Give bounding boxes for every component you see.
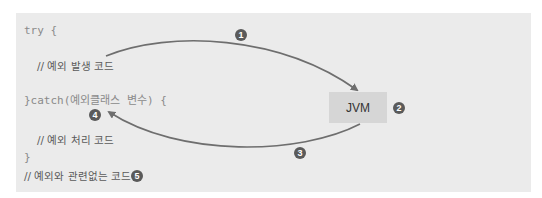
catch-line: }catch(예외클래스 변수) {: [24, 94, 167, 108]
jvm-label: JVM: [346, 101, 370, 115]
handling-comment: // 예외 처리 코드: [37, 133, 114, 147]
unrelated-comment: // 예외와 관련없는 코드: [24, 169, 131, 183]
exception-comment: // 예외 발생 코드: [37, 59, 114, 73]
step-marker-3: 3: [294, 147, 306, 159]
try-line: try {: [24, 24, 57, 38]
step-marker-1: 1: [235, 29, 247, 41]
step-marker-2: 2: [393, 102, 405, 114]
close-brace: }: [24, 151, 31, 165]
step-marker-4: 4: [89, 109, 101, 121]
jvm-box: JVM: [329, 92, 387, 123]
step-marker-5: 5: [131, 170, 143, 182]
